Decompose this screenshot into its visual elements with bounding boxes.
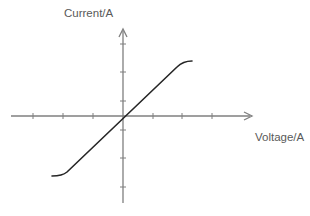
iv-chart [0,0,310,216]
x-axis [11,112,252,120]
y-axis-label: Current/A [64,8,113,20]
iv-curve [52,61,192,176]
x-axis-label: Voltage/A [255,132,304,144]
